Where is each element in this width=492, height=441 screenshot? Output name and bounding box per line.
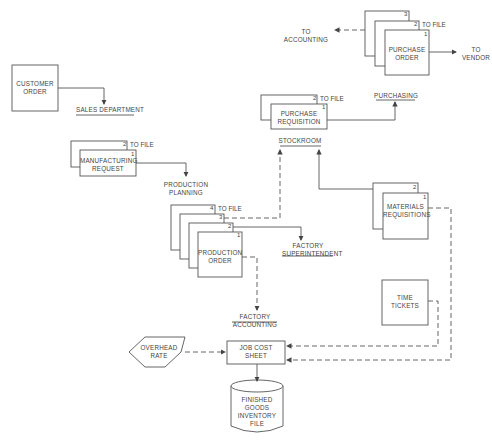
purchase-req-to-file: TO FILE [320,95,344,102]
purchase-requisition-label: PURCHASE REQUISITION [271,110,327,126]
customer-order-label: CUSTOMER ORDER [12,80,58,96]
production-copy-2-num: 2 [228,223,231,229]
factory-accounting-label: FACTORY ACCOUNTING [232,313,278,329]
to-vendor-label: TO VENDOR [460,46,492,62]
finished-goods-file-label: FINISHED GOODS INVENTORY FILE [231,396,283,428]
job-cost-sheet-label: JOB COST SHEET [227,344,285,360]
manufacturing-to-file: TO FILE [130,141,154,148]
purchase-order-copy-3-num: 3 [404,11,407,17]
materials-copy-2-num: 2 [413,184,416,190]
purchase-order-copy-2-num: 2 [414,21,417,27]
manufacturing-copy-2-num: 2 [123,141,126,147]
purchase-order-to-file: TO FILE [422,21,446,28]
time-tickets-label: TIME TICKETS [382,294,428,310]
factory-superintendent-label: FACTORY SUPERINTENDENT [282,242,334,258]
production-copy-3-num: 3 [219,214,222,220]
overhead-rate-label: OVERHEAD RATE [137,344,181,360]
production-copy-1-num: 1 [237,232,240,238]
production-to-file: TO FILE [218,205,242,212]
manufacturing-request-label: MANUFACTURING REQUEST [80,157,136,173]
stockroom-label: STOCKROOM [278,137,322,145]
production-planning-label: PRODUCTION PLANNING [162,181,210,197]
to-accounting-label: TO ACCOUNTING [280,28,332,44]
sales-department-label: SALES DEPARTMENT [76,106,134,114]
purchase-req-copy-2-num: 2 [313,95,316,101]
purchase-order-label: PURCHASE ORDER [385,46,429,62]
materials-requisitions-label: MATERIALS REQUISITIONS [383,203,428,219]
production-copy-4-num: 4 [210,205,213,211]
production-order-label: PRODUCTION ORDER [198,249,242,265]
purchase-order-copy-1-num: 1 [424,31,427,37]
materials-copy-1-num: 1 [423,194,426,200]
purchasing-label: PURCHASING [374,92,416,100]
